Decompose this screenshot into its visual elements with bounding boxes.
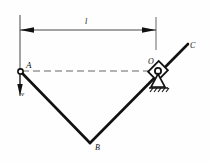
pin-joint-a-icon	[18, 69, 23, 74]
dimension-arrow-left-icon	[20, 27, 34, 33]
mechanism-diagram-canvas: A B C O l v	[0, 0, 210, 163]
label-dimension-l: l	[85, 18, 87, 26]
link-ab	[21, 72, 90, 143]
link-bc	[90, 44, 188, 143]
diagram-vector-layer	[0, 0, 210, 163]
label-velocity-v: v	[21, 91, 24, 98]
label-point-a: A	[26, 61, 32, 70]
dimension-arrow-right-icon	[142, 27, 156, 33]
label-point-c: C	[190, 42, 195, 50]
label-point-b: B	[95, 144, 100, 152]
label-point-o: O	[148, 58, 154, 66]
